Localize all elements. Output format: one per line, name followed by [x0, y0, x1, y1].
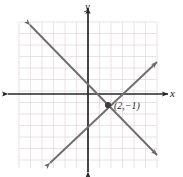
intersection-point-label: (2,−1) [114, 100, 141, 112]
coordinate-plane-figure: (2,−1) x y [0, 0, 183, 177]
y-axis-label: y [84, 0, 90, 12]
x-axis-label: x [169, 87, 175, 99]
graph-canvas: (2,−1) x y [0, 0, 183, 177]
intersection-point-marker [105, 102, 111, 108]
